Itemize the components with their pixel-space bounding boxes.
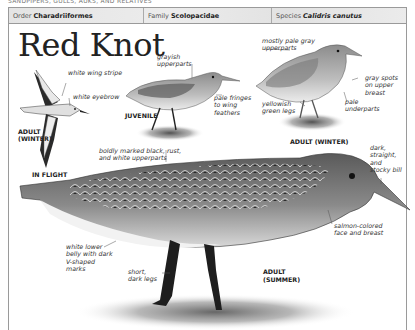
adult-winter-bird-icon — [256, 45, 362, 131]
annotation-pale-gray-upperparts: mostly pale gray upperparts — [262, 37, 324, 52]
annotation-salmon-face-breast: salmon-colored face and breast — [334, 222, 384, 237]
adult-summer-bird-icon — [20, 153, 410, 330]
juvenile-label: JUVENILE — [125, 112, 158, 119]
annotation-pale-fringes: pale fringes to wing feathers — [214, 94, 252, 116]
annotation-yellowish-green-legs: yellowish green legs — [262, 100, 296, 115]
annotation-pale-underparts: pale underparts — [345, 98, 379, 113]
adult-winter-label: ADULT (WINTER) — [290, 138, 348, 145]
annotation-boldly-marked-upperparts: boldly marked black, rust, and white upp… — [99, 147, 185, 162]
annotation-short-dark-legs: short, dark legs — [128, 268, 162, 283]
annotation-white-eyebrow: white eyebrow — [73, 93, 119, 100]
flight-age-label-2: (WINTER) — [18, 135, 52, 142]
flight-bird-icon — [20, 70, 90, 168]
annotation-grayish-upperparts: grayish upperparts — [157, 53, 193, 68]
annotation-white-wing-stripe: white wing stripe — [68, 69, 122, 76]
annotation-gray-spots-breast: gray spots on upper breast — [365, 74, 399, 96]
annotation-white-lower-belly: white lower belly with dark V-shaped mar… — [66, 243, 116, 273]
bird-illustrations — [0, 0, 415, 330]
adult-summer-label-2: (SUMMER) — [263, 276, 300, 283]
annotation-dark-stocky-bill: dark, straight, and stocky bill — [370, 144, 404, 174]
adult-summer-label-1: ADULT — [263, 268, 285, 275]
in-flight-caption: IN FLIGHT — [32, 171, 67, 178]
